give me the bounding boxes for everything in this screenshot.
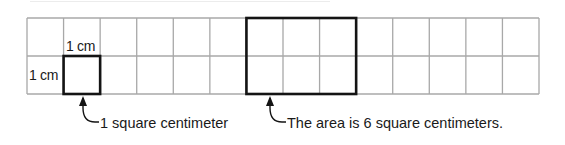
unit-square-annotation: 1 square centimeter [100,116,228,131]
grid-lines [27,18,539,94]
unit-square-top-label: 1 cm [66,39,95,53]
area-rectangle-annotation: The area is 6 square centimeters. [287,116,503,131]
unit-square-outline [64,56,101,94]
unit-square-side-label: 1 cm [29,68,58,82]
area-diagram: 1 cm 1 cm 1 square centimeter The area i… [0,0,565,145]
area-rectangle-arrow-icon [266,96,286,122]
unit-square-arrow-icon [79,96,99,122]
